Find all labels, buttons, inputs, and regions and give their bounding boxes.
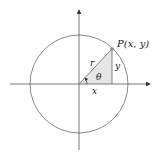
unit-circle-diagram: P(x, y) r θ x y: [0, 0, 158, 158]
radius-label: r: [90, 58, 95, 68]
point-label: P(x, y): [116, 38, 149, 49]
y-leg-label: y: [114, 61, 121, 71]
x-leg-label: x: [92, 86, 97, 96]
point-p: [110, 47, 114, 51]
angle-label: θ: [96, 72, 102, 82]
